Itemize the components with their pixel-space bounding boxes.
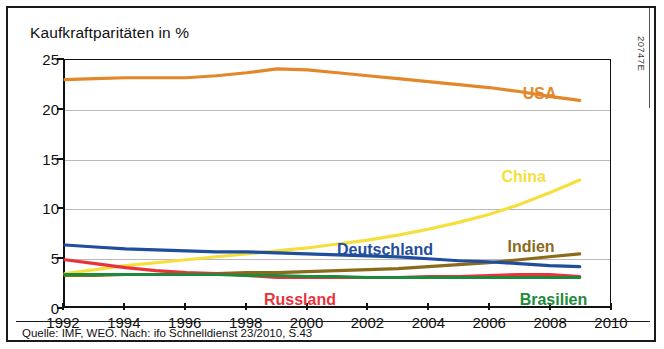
x-tick-label-2004: 2004 xyxy=(412,315,445,330)
series-label-china: China xyxy=(501,169,545,185)
x-tick-label-2008: 2008 xyxy=(533,315,566,330)
y-tick-label-20: 20 xyxy=(25,101,59,116)
x-tick-mark-2002 xyxy=(366,303,368,310)
source-note: Quelle: IMF, WEO. Nach: ifo Schnelldiens… xyxy=(22,327,312,339)
series-label-deutschland: Deutschland xyxy=(337,242,433,258)
x-tick-mark-2006 xyxy=(488,303,490,310)
x-tick-mark-2004 xyxy=(427,303,429,310)
catalog-code-divider xyxy=(649,8,650,108)
x-tick-mark-1996 xyxy=(184,303,186,310)
source-divider xyxy=(16,321,650,322)
x-tick-label-2006: 2006 xyxy=(473,315,506,330)
chart-card: Kaufkraftparitäten in % 0510152025 19921… xyxy=(18,18,638,328)
y-tick-label-10: 10 xyxy=(25,201,59,216)
x-tick-mark-1994 xyxy=(123,303,125,310)
y-axis: 0510152025 xyxy=(18,59,59,308)
x-tick-mark-1992 xyxy=(62,303,64,310)
x-tick-label-2010: 2010 xyxy=(594,315,627,330)
chart-screenshot: Kaufkraftparitäten in % 0510152025 19921… xyxy=(0,0,664,349)
series-label-russland: Russland xyxy=(264,292,336,308)
chart-title: Kaufkraftparitäten in % xyxy=(30,24,189,42)
series-line-china xyxy=(65,180,580,273)
series-label-indien: Indien xyxy=(507,239,554,255)
figure-frame: Kaufkraftparitäten in % 0510152025 19921… xyxy=(6,6,656,342)
y-tick-label-15: 15 xyxy=(25,151,59,166)
x-tick-label-2002: 2002 xyxy=(351,315,384,330)
x-tick-mark-2010 xyxy=(610,303,612,310)
series-line-usa xyxy=(65,69,580,100)
catalog-code: 20747E xyxy=(636,36,647,71)
y-tick-label-5: 5 xyxy=(25,251,59,266)
x-tick-mark-1998 xyxy=(245,303,247,310)
series-label-brasilien: Brasilien xyxy=(520,292,588,308)
series-label-usa: USA xyxy=(523,86,557,102)
y-tick-label-25: 25 xyxy=(25,52,59,67)
